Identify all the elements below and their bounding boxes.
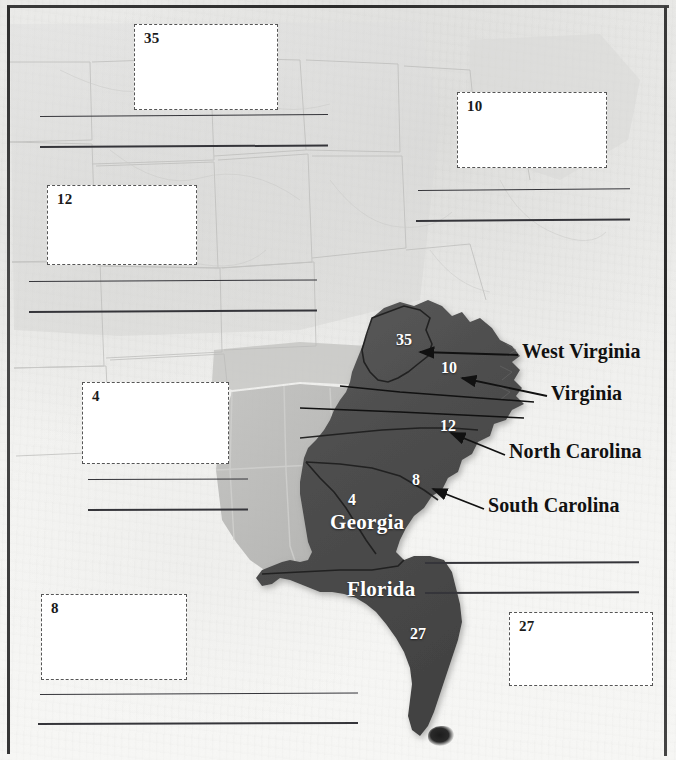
map-number-27: 27 — [410, 625, 426, 643]
map-number-4: 4 — [348, 491, 356, 509]
map-number-35: 35 — [396, 331, 412, 349]
state-label-north-carolina: North Carolina — [509, 440, 642, 463]
answer-box-number: 27 — [519, 618, 534, 635]
answer-box-12[interactable]: 12 — [47, 185, 197, 265]
map-number-8: 8 — [412, 471, 420, 489]
answer-box-number: 4 — [92, 388, 100, 405]
answer-box-35[interactable]: 35 — [134, 24, 278, 110]
map-label-florida: Florida — [347, 577, 416, 602]
page-border-top — [7, 5, 669, 8]
answer-box-10[interactable]: 10 — [457, 92, 607, 168]
answer-box-4[interactable]: 4 — [82, 382, 229, 464]
answer-box-number: 12 — [57, 191, 72, 208]
map-number-10: 10 — [441, 359, 457, 377]
page-border-left — [7, 6, 10, 754]
map-number-12: 12 — [440, 417, 456, 435]
state-label-west-virginia: West Virginia — [522, 340, 641, 363]
answer-box-number: 8 — [51, 600, 59, 617]
map-label-georgia: Georgia — [330, 510, 404, 535]
answer-box-27[interactable]: 27 — [509, 612, 653, 686]
map-worksheet: 35 10 12 4 8 27 West Virginia Virginia N… — [0, 0, 676, 760]
answer-box-number: 35 — [144, 30, 159, 47]
answer-box-number: 10 — [467, 98, 482, 115]
answer-box-8[interactable]: 8 — [41, 594, 187, 680]
state-label-virginia: Virginia — [551, 382, 622, 405]
state-label-south-carolina: South Carolina — [488, 494, 620, 517]
page-border-right — [664, 6, 667, 756]
